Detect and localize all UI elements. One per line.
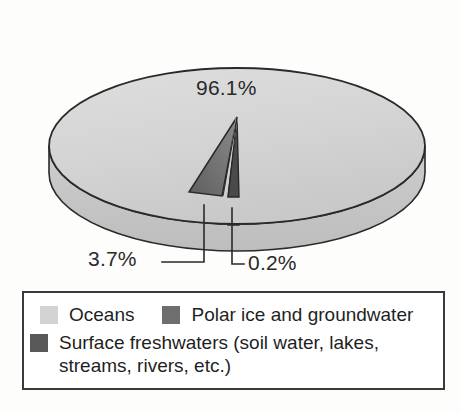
legend-label-oceans: Oceans <box>69 303 134 326</box>
pie-chart-figure: 96.1% 3.7% 0.2% Oceans Polar ice and gro… <box>0 0 460 412</box>
value-label-oceans: 96.1% <box>196 76 257 100</box>
legend-swatch-polar-icon <box>162 306 180 324</box>
chart-canvas: 96.1% 3.7% 0.2% <box>0 0 460 290</box>
legend-entry-surface: Surface freshwaters (soil water, lakes, … <box>30 331 379 377</box>
legend-entry-oceans: Oceans <box>40 303 134 326</box>
legend-swatch-surface-icon <box>30 334 48 352</box>
legend-swatch-oceans-icon <box>40 306 58 324</box>
legend-row-top: Oceans Polar ice and groundwater <box>40 303 413 326</box>
value-label-polar: 3.7% <box>88 247 137 271</box>
legend-label-surface: Surface freshwaters (soil water, lakes, … <box>59 331 379 377</box>
pie-chart-svg <box>0 0 460 290</box>
legend-label-polar: Polar ice and groundwater <box>191 303 413 326</box>
chart-legend: Oceans Polar ice and groundwater Surface… <box>22 291 445 390</box>
legend-row-bottom: Surface freshwaters (soil water, lakes, … <box>30 331 379 377</box>
value-label-surface: 0.2% <box>248 251 297 275</box>
legend-entry-polar: Polar ice and groundwater <box>162 303 413 326</box>
